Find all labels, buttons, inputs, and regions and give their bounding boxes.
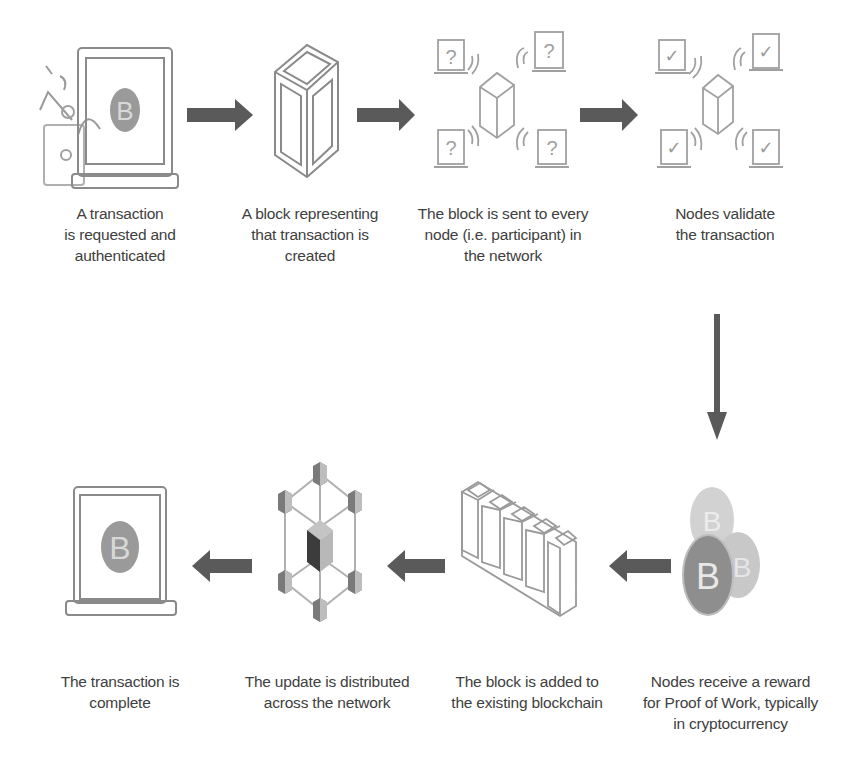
step-5-label: Nodes receive a rewardfor Proof of Work,… [618,671,843,734]
question-glyph: ? [445,137,456,159]
arrow-right-3 [578,97,640,133]
arrow-left-3 [190,548,254,584]
block-broadcast-question-icon: ? ? ? ? [430,30,580,175]
bitcoin-coins-icon: B B B [680,475,770,625]
step-3-label: The block is sent to everynode (i.e. par… [398,203,608,266]
laptop-bitcoin-icon: B [64,485,179,620]
check-glyph: ✓ [664,45,679,66]
bitcoin-glyph: B [696,556,720,597]
bitcoin-glyph: B [703,506,722,537]
step-7-label: The update is distributedacross the netw… [222,671,432,713]
check-glyph: ✓ [666,137,681,158]
blockchain-icon [458,478,598,618]
step-6-label: The block is added tothe existing blockc… [432,671,622,713]
network-distribution-icon [275,462,365,622]
step-8-label: The transaction iscomplete [20,671,220,713]
bitcoin-glyph: B [733,552,752,583]
bitcoin-glyph: B [116,96,133,126]
check-glyph: ✓ [758,41,773,62]
arrow-down [705,312,729,442]
arrow-right-2 [355,97,417,133]
laptop-bitcoin-payment-icon: B [30,40,190,195]
block-icon [270,40,345,190]
step-4-label: Nodes validatethe transaction [625,203,825,245]
arrow-left-1 [607,548,673,584]
step-2-label: A block representingthat transaction isc… [225,203,395,266]
question-glyph: ? [546,137,557,159]
block-broadcast-check-icon: ✓ ✓ ✓ ✓ [655,30,795,175]
step-1-label: A transactionis requested andauthenticat… [20,203,220,266]
arrow-right-1 [185,97,255,133]
question-glyph: ? [543,40,554,62]
arrow-left-2 [385,548,447,584]
bitcoin-glyph: B [109,530,130,566]
question-glyph: ? [445,46,456,68]
check-glyph: ✓ [758,137,773,158]
